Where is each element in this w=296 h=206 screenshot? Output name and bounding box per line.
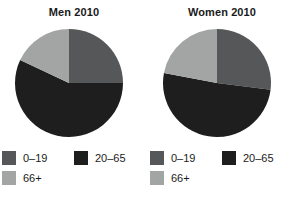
chart-panel-men: Men 2010 0–19 20–65 [0, 0, 148, 206]
legend-row: 66+ [148, 168, 296, 188]
legend-label-0-19: 0–19 [23, 151, 47, 165]
pie-svg-men [14, 28, 124, 138]
pie-svg-women [162, 28, 272, 138]
pie-chart-women [162, 28, 272, 138]
pie-chart-men [14, 28, 124, 138]
legend-swatch-icon-20-65 [222, 151, 236, 165]
legend-label-20-65: 20–65 [95, 151, 126, 165]
legend-item-women-0-19[interactable]: 0–19 [150, 148, 195, 168]
legend-women: 0–19 20–65 66+ [148, 148, 296, 196]
page-title-men: Men 2010 [0, 6, 148, 18]
legend-label-66: 66+ [171, 171, 190, 185]
legend-men: 0–19 20–65 66+ [0, 148, 148, 196]
legend-item-women-66[interactable]: 66+ [150, 168, 190, 188]
legend-row: 0–19 20–65 [0, 148, 148, 168]
pie-chart-figure: Men 2010 0–19 20–65 [0, 0, 296, 206]
pie-slice-women-0-19[interactable] [217, 29, 271, 90]
legend-swatch-icon-0-19 [150, 151, 164, 165]
legend-swatch-icon-0-19 [2, 151, 16, 165]
legend-swatch-icon-66 [150, 171, 164, 185]
legend-label-0-19: 0–19 [171, 151, 195, 165]
pie-slices-men [15, 29, 123, 137]
legend-row: 0–19 20–65 [148, 148, 296, 168]
legend-swatch-icon-66 [2, 171, 16, 185]
page-title-women: Women 2010 [148, 6, 296, 18]
legend-item-women-20-65[interactable]: 20–65 [222, 148, 274, 168]
legend-row: 66+ [0, 168, 148, 188]
legend-item-men-0-19[interactable]: 0–19 [2, 148, 47, 168]
chart-panel-women: Women 2010 0–19 20–65 [148, 0, 296, 206]
legend-item-men-20-65[interactable]: 20–65 [74, 148, 126, 168]
legend-label-20-65: 20–65 [243, 151, 274, 165]
legend-swatch-icon-20-65 [74, 151, 88, 165]
pie-slice-men-0-19[interactable] [69, 29, 123, 83]
legend-label-66: 66+ [23, 171, 42, 185]
pie-slices-women [163, 29, 271, 137]
legend-item-men-66[interactable]: 66+ [2, 168, 42, 188]
